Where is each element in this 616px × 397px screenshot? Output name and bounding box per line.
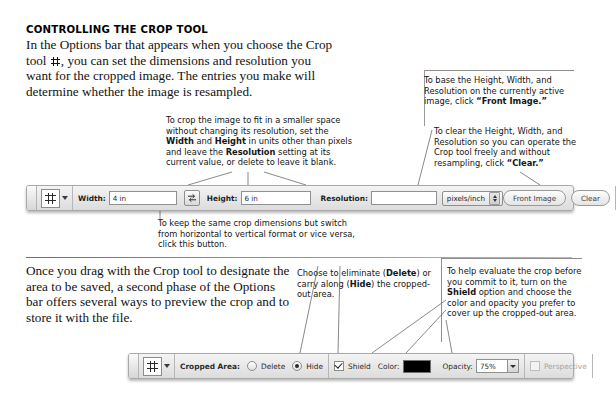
crop-tool-icon[interactable] (41, 189, 60, 208)
callout-rule-front-image (424, 70, 574, 71)
cropped-area-label: Cropped Area: (180, 362, 240, 371)
callout-width-height-b3: Resolution (226, 147, 276, 157)
callout-front-image: To base the Height, Width, and Resolutio… (424, 75, 574, 107)
callout-delete-hide-b1: Delete (386, 268, 417, 278)
perspective-label: Perspective (544, 362, 587, 371)
options-bar-crop-preview[interactable]: Cropped Area: Delete Hide Shield Color: … (128, 353, 574, 379)
resolution-label: Resolution: (321, 194, 368, 203)
callout-delete-hide-t1: Choose to eliminate ( (297, 268, 386, 278)
callout-width-height-b1: Width (166, 136, 194, 146)
delete-label: Delete (261, 362, 285, 371)
callout-shield: To help evaluate the crop before you com… (447, 266, 582, 319)
callout-width-height-t1: To crop the image to fit in a smaller sp… (166, 115, 340, 136)
callout-rule-shield-left (441, 258, 442, 342)
options-bar-grip[interactable] (27, 186, 37, 210)
crop-tool-icon[interactable] (143, 357, 162, 376)
intro-paragraph-part2: , you can set the dimensions and resolut… (26, 53, 315, 99)
callout-clear: To clear the Height, Width, and Resoluti… (434, 126, 580, 168)
callout-delete-hide: Choose to eliminate (Delete) or carry al… (297, 268, 437, 300)
callout-width-height-t2: and (194, 136, 215, 146)
width-label: Width: (78, 194, 106, 203)
intro-paragraph: In the Options bar that appears when you… (26, 37, 338, 99)
hide-radio[interactable] (292, 361, 302, 371)
chevron-down-icon[interactable] (164, 364, 170, 368)
opacity-input[interactable]: 75% (476, 359, 508, 373)
callout-width-height: To crop the image to fit in a smaller sp… (166, 115, 356, 168)
callout-rule-shield-top (441, 258, 582, 259)
width-field-group[interactable]: Width: 4 in (73, 186, 182, 210)
callout-delete-hide-b2: Hide (350, 279, 371, 289)
chevron-down-icon[interactable] (62, 196, 68, 200)
color-label: Color: (378, 362, 400, 371)
shield-label: Shield (348, 362, 371, 371)
color-swatch[interactable] (403, 360, 431, 373)
front-image-button[interactable]: Front Image (503, 190, 566, 206)
resolution-input[interactable] (371, 191, 437, 205)
callout-shield-b1: Shield (447, 287, 476, 297)
shield-checkbox[interactable] (334, 361, 344, 371)
perspective-checkbox[interactable] (530, 361, 540, 371)
page-title: CONTROLLING THE CROP TOOL (26, 24, 356, 35)
perspective-checkbox-group[interactable]: Perspective (525, 354, 592, 378)
resolution-units-value: pixels/inch (447, 194, 485, 203)
height-input[interactable]: 6 in (241, 191, 311, 205)
callout-rotate-button: To keep the same crop dimensions but swi… (158, 218, 368, 250)
swap-width-height-icon[interactable] (184, 190, 200, 206)
crop-tool-icon (51, 57, 60, 66)
options-bar-crop-settings[interactable]: Width: 4 in Height: 6 in Resolution: pix… (26, 185, 574, 211)
color-group[interactable]: Color: (376, 354, 437, 378)
options-bar-grip-2[interactable] (129, 354, 139, 378)
callout-shield-t1: To help evaluate the crop before you com… (447, 266, 581, 287)
tool-preset-well[interactable] (37, 186, 73, 210)
cropped-area-group: Cropped Area: (175, 354, 245, 378)
callout-clear-t1: To clear the Height, Width, and Resoluti… (434, 126, 576, 168)
clear-button[interactable]: Clear (571, 190, 610, 206)
callout-rotate-t1: To keep the same crop dimensions but swi… (158, 218, 355, 249)
tool-preset-well-2[interactable] (139, 354, 175, 378)
resolution-field-group[interactable]: Resolution: (316, 186, 442, 210)
stepper-arrows-icon[interactable] (489, 192, 500, 205)
hide-label: Hide (306, 362, 323, 371)
hide-radio-group[interactable]: Hide (290, 354, 328, 378)
callout-clear-b1: “Clear.” (507, 158, 544, 168)
opacity-dropdown-icon[interactable] (508, 359, 519, 373)
opacity-group[interactable]: Opacity: 75% (436, 354, 523, 378)
callout-width-height-b2: Height (215, 136, 246, 146)
opacity-label: Opacity: (442, 362, 472, 371)
resolution-units-select[interactable]: pixels/inch (442, 191, 503, 206)
second-paragraph: Once you drag with the Crop tool to desi… (26, 263, 294, 325)
delete-radio[interactable] (247, 361, 257, 371)
width-input[interactable]: 4 in (109, 191, 177, 205)
height-field-group[interactable]: Height: 6 in (202, 186, 316, 210)
shield-checkbox-group[interactable]: Shield (329, 354, 376, 378)
height-label: Height: (207, 194, 238, 203)
options-bar-2-divider-3 (592, 354, 593, 378)
callout-front-image-b1: “Front Image.” (476, 96, 547, 106)
delete-radio-group[interactable]: Delete (245, 354, 290, 378)
